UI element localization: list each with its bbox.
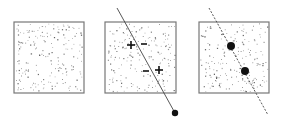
speckle-point bbox=[149, 37, 150, 38]
speckle-point bbox=[216, 81, 217, 82]
speckle-point bbox=[220, 64, 221, 65]
speckle-point bbox=[209, 68, 210, 69]
speckle-point bbox=[160, 63, 161, 64]
speckle-point bbox=[224, 52, 225, 53]
speckle-point bbox=[254, 82, 255, 83]
speckle-point bbox=[208, 63, 209, 64]
speckle-point bbox=[170, 53, 171, 54]
speckle-point bbox=[58, 70, 59, 71]
speckle-point bbox=[238, 51, 239, 52]
speckle-point bbox=[121, 83, 122, 84]
speckle-point bbox=[77, 58, 78, 59]
speckle-point bbox=[230, 69, 231, 70]
speckle-point bbox=[35, 49, 36, 50]
speckle-point bbox=[243, 90, 244, 91]
speckle-point bbox=[210, 88, 211, 89]
speckle-point bbox=[238, 54, 239, 55]
speckle-point bbox=[209, 49, 210, 50]
speckle-point bbox=[165, 39, 166, 40]
speckle-point bbox=[69, 27, 70, 28]
speckle-point bbox=[113, 70, 114, 71]
speckle-point bbox=[51, 43, 52, 44]
speckle-point bbox=[151, 51, 152, 52]
speckle-point bbox=[266, 62, 267, 63]
speckle-point bbox=[224, 55, 225, 56]
speckle-point bbox=[110, 79, 111, 80]
speckle-point bbox=[45, 56, 46, 57]
speckle-point bbox=[211, 77, 212, 78]
speckle-point bbox=[249, 52, 250, 53]
speckle-point bbox=[168, 59, 169, 60]
speckle-point bbox=[252, 81, 253, 82]
speckle-point bbox=[221, 59, 222, 60]
speckle-point bbox=[127, 35, 128, 36]
speckle-point bbox=[18, 90, 19, 91]
speckle-point bbox=[241, 90, 242, 91]
speckle-point bbox=[231, 37, 232, 38]
speckle-point bbox=[81, 61, 82, 62]
speckle-point bbox=[264, 76, 265, 77]
speckle-point bbox=[48, 24, 49, 25]
speckle-point bbox=[28, 31, 29, 32]
speckle-point bbox=[214, 63, 215, 64]
speckle-point bbox=[81, 54, 82, 55]
speckle-point bbox=[136, 44, 137, 45]
speckle-point bbox=[18, 41, 19, 42]
speckle-point bbox=[37, 38, 38, 39]
speckle-point bbox=[215, 80, 216, 81]
speckle-point bbox=[117, 51, 118, 52]
speckle-point bbox=[132, 57, 133, 58]
speckle-point bbox=[58, 27, 59, 28]
speckle-point bbox=[234, 60, 235, 61]
speckle-point bbox=[253, 85, 254, 86]
speckle-point bbox=[217, 48, 218, 49]
speckle-point bbox=[267, 69, 268, 70]
speckle-point bbox=[25, 71, 26, 72]
speckle-point bbox=[208, 43, 209, 44]
speckle-point bbox=[58, 61, 59, 62]
speckle-point bbox=[16, 71, 17, 72]
speckle-point bbox=[212, 83, 213, 84]
speckle-point bbox=[26, 62, 27, 63]
speckle-point bbox=[28, 63, 29, 64]
speckle-point bbox=[139, 29, 140, 30]
speckle-point bbox=[111, 55, 112, 56]
speckle-point bbox=[234, 70, 235, 71]
speckle-point bbox=[155, 38, 156, 39]
speckle-point bbox=[57, 39, 58, 40]
speckle-point bbox=[233, 41, 234, 42]
speckle-point bbox=[253, 79, 254, 80]
speckle-point bbox=[64, 54, 65, 55]
speckle-point bbox=[80, 72, 81, 73]
speckle-point bbox=[165, 46, 166, 47]
speckle-point bbox=[205, 30, 206, 31]
speckle-point bbox=[259, 24, 260, 25]
speckle-point bbox=[206, 62, 207, 63]
speckle-point bbox=[143, 49, 144, 50]
speckle-point bbox=[242, 80, 243, 81]
speckle-point bbox=[33, 90, 34, 91]
speckle-point bbox=[219, 84, 220, 85]
speckle-point bbox=[72, 38, 73, 39]
speckle-point bbox=[218, 63, 219, 64]
speckle-point bbox=[61, 68, 62, 69]
speckle-point bbox=[32, 31, 33, 32]
speckle-point bbox=[19, 70, 20, 71]
speckle-point bbox=[157, 45, 158, 46]
speckle-point bbox=[267, 27, 268, 28]
speckle-point bbox=[156, 72, 157, 73]
speckle-point bbox=[243, 31, 244, 32]
speckle-point bbox=[43, 79, 44, 80]
speckle-point bbox=[31, 53, 32, 54]
speckle-point bbox=[131, 52, 132, 53]
speckle-point bbox=[222, 68, 223, 69]
speckle-point bbox=[220, 86, 221, 87]
speckle-point bbox=[59, 67, 60, 68]
speckle-point bbox=[163, 84, 164, 85]
speckle-point bbox=[143, 76, 144, 77]
speckle-point bbox=[65, 38, 66, 39]
speckle-point bbox=[245, 81, 246, 82]
speckle-point bbox=[69, 88, 70, 89]
speckle-point bbox=[148, 38, 149, 39]
speckle-point bbox=[25, 43, 26, 44]
